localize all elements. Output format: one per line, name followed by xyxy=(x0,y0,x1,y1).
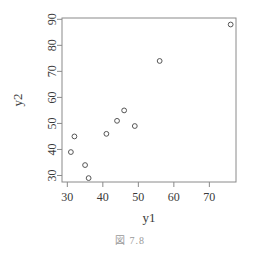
y-axis-tick-labels: 30405060708090 xyxy=(45,13,59,181)
data-point xyxy=(115,118,120,123)
data-point xyxy=(157,59,162,64)
scatter-plot: 3040506070 30405060708090 y1 y2 xyxy=(0,0,260,259)
x-axis-ticks xyxy=(67,182,209,187)
y-tick-label-6: 90 xyxy=(45,13,59,25)
plot-frame xyxy=(62,18,236,182)
data-point xyxy=(68,150,73,155)
figure-caption: 図 7.8 xyxy=(0,232,260,247)
data-point-group xyxy=(68,22,233,180)
y-tick-label-3: 60 xyxy=(45,91,59,103)
x-tick-label-1: 40 xyxy=(97,190,109,204)
x-axis-tick-labels: 3040506070 xyxy=(61,190,215,204)
y-tick-label-5: 80 xyxy=(45,39,59,51)
x-tick-label-4: 70 xyxy=(203,190,215,204)
data-point xyxy=(72,134,77,139)
x-axis-label: y1 xyxy=(143,210,156,225)
y-tick-label-1: 40 xyxy=(45,143,59,155)
data-point xyxy=(122,108,127,113)
data-point xyxy=(228,22,233,27)
data-point xyxy=(86,176,91,181)
x-tick-label-0: 30 xyxy=(61,190,73,204)
figure-container: 3040506070 30405060708090 y1 y2 図 7.8 xyxy=(0,0,260,259)
plot-box-border xyxy=(62,18,236,182)
data-point xyxy=(83,163,88,168)
x-tick-label-2: 50 xyxy=(132,190,144,204)
y-tick-label-2: 50 xyxy=(45,117,59,129)
data-point xyxy=(104,131,109,136)
y-tick-label-0: 30 xyxy=(45,169,59,181)
x-tick-label-3: 60 xyxy=(168,190,180,204)
data-point xyxy=(132,124,137,129)
y-axis-label: y2 xyxy=(10,94,25,107)
y-tick-label-4: 70 xyxy=(45,65,59,77)
